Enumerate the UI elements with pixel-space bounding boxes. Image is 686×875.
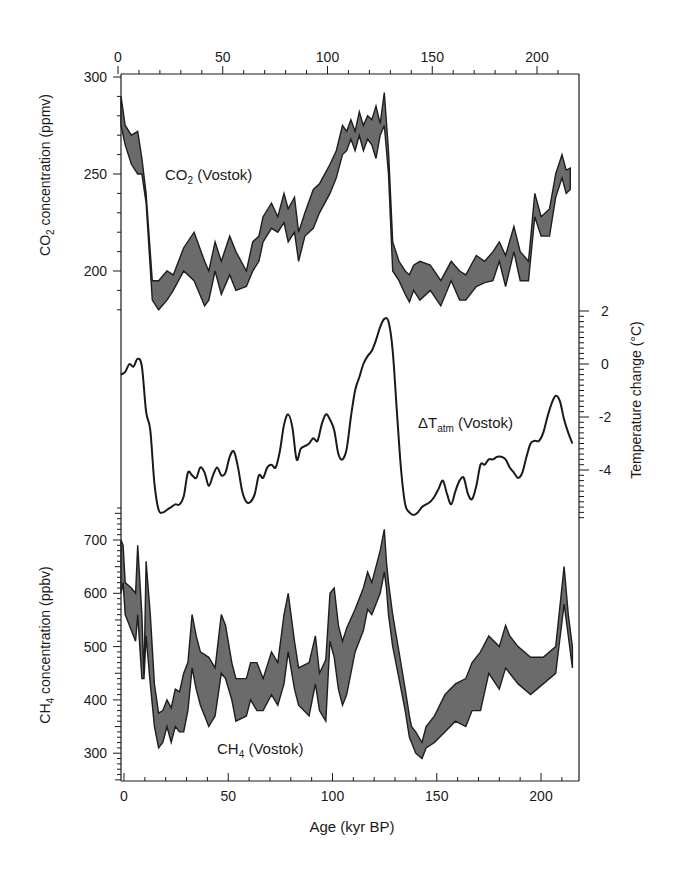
ch4-band-series <box>121 529 572 758</box>
tick-label: 200 <box>525 49 549 65</box>
vostok-ice-core-chart: 050100150200 050100150200 300250200 20-2… <box>0 0 686 875</box>
tick-label: 300 <box>84 69 108 85</box>
tick-label: 0 <box>601 356 609 372</box>
tick-label: 500 <box>84 639 108 655</box>
tick-label: 100 <box>321 788 345 804</box>
tick-label: 0 <box>120 788 128 804</box>
tick-label: 200 <box>84 263 108 279</box>
temperature-y-axis: 20-2-4 <box>579 303 611 518</box>
tick-label: 250 <box>84 166 108 182</box>
tick-label: 200 <box>529 788 553 804</box>
tick-label: 50 <box>220 788 236 804</box>
temperature-series-label: ΔTatm (Vostok) <box>418 414 513 434</box>
tick-label: 100 <box>316 49 340 65</box>
tick-label: 0 <box>114 49 122 65</box>
tick-label: -4 <box>599 462 612 478</box>
bottom-x-axis: 050100150200 <box>120 773 562 804</box>
tick-label: 400 <box>84 692 108 708</box>
tick-label: 2 <box>601 303 609 319</box>
top-x-axis: 050100150200 <box>114 49 558 74</box>
ch4-y-axis: 700600500400300 <box>84 508 121 780</box>
uncertainty-band <box>121 529 572 758</box>
ch4-axis-title: CH4 concentration (ppbv) <box>37 566 56 723</box>
tick-label: -2 <box>599 409 612 425</box>
co2-series-label: CO2 (Vostok) <box>165 166 252 186</box>
temperature-axis-title: Temperature change (°C) <box>628 321 644 478</box>
co2-band-series <box>121 93 570 310</box>
ch4-series-label: CH4 (Vostok) <box>217 740 303 760</box>
tick-label: 700 <box>84 532 108 548</box>
tick-label: 50 <box>215 49 231 65</box>
uncertainty-band <box>121 93 570 310</box>
tick-label: 150 <box>425 788 449 804</box>
tick-label: 150 <box>421 49 445 65</box>
tick-label: 600 <box>84 585 108 601</box>
co2-axis-title: CO2 concentration (ppmv) <box>37 94 56 256</box>
co2-y-axis: 300250200 <box>84 69 121 310</box>
tick-label: 300 <box>84 745 108 761</box>
x-axis-title: Age (kyr BP) <box>309 818 394 835</box>
